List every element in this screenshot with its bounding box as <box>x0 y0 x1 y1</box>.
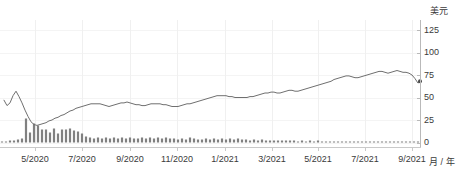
gridline-vertical <box>35 20 36 143</box>
y-axis-tick-mark <box>417 53 421 54</box>
x-axis-tick-mark <box>35 147 36 151</box>
x-axis-tick-label: 5/2020 <box>21 154 49 164</box>
gridline-horizontal <box>0 143 420 144</box>
x-axis-tick-label: 9/2021 <box>398 154 426 164</box>
x-axis-tick-label: 1/2021 <box>211 154 239 164</box>
x-axis-tick-mark <box>225 147 226 151</box>
y-axis-tick-mark <box>417 98 421 99</box>
x-axis-tick-mark <box>318 147 319 151</box>
gridline-vertical <box>412 20 413 143</box>
gridline-vertical <box>82 20 83 143</box>
y-axis-tick-label: 100 <box>424 48 439 57</box>
y-axis-title: 美元 <box>430 4 448 17</box>
x-axis-tick-label: 3/2021 <box>258 154 286 164</box>
y-axis-tick-mark <box>417 30 421 31</box>
gridline-horizontal <box>0 30 420 31</box>
x-axis-tick-label: 11/2020 <box>161 154 193 164</box>
y-axis-tick-label: 125 <box>424 26 439 35</box>
plot-area <box>0 20 420 143</box>
x-axis-tick-label: 5/2021 <box>304 154 332 164</box>
gridline-vertical <box>365 20 366 143</box>
x-axis-tick-mark <box>82 147 83 151</box>
gridline-horizontal <box>0 120 420 121</box>
gridline-vertical <box>272 20 273 143</box>
x-axis-tick-label: 7/2021 <box>351 154 379 164</box>
gridline-vertical <box>225 20 226 143</box>
y-axis-tick-label: 0 <box>424 138 429 147</box>
x-axis-title: 月 / 年 <box>429 155 455 168</box>
x-axis-tick-mark <box>412 147 413 151</box>
x-axis-tick-mark <box>177 147 178 151</box>
x-axis-tick-label: 9/2020 <box>116 154 144 164</box>
gridline-horizontal <box>0 53 420 54</box>
gridline-vertical <box>318 20 319 143</box>
y-axis-tick-label: 50 <box>424 93 434 102</box>
x-axis-tick-label: 7/2020 <box>68 154 96 164</box>
stock-price-chart: 美元 月 / 年 0255075100125 5/20207/20209/202… <box>0 0 463 173</box>
y-axis-tick-mark <box>417 120 421 121</box>
y-axis-tick-label: 75 <box>424 71 434 80</box>
gridline-horizontal <box>0 75 420 76</box>
gridline-horizontal <box>0 98 420 99</box>
y-axis-tick-label: 25 <box>424 116 434 125</box>
x-axis-tick-mark <box>365 147 366 151</box>
y-axis-tick-mark <box>417 143 421 144</box>
y-axis-line <box>420 20 421 148</box>
x-axis-tick-mark <box>130 147 131 151</box>
gridline-vertical <box>130 20 131 143</box>
x-axis-line <box>0 147 421 148</box>
gridline-vertical <box>177 20 178 143</box>
x-axis-tick-mark <box>272 147 273 151</box>
y-axis-tick-mark <box>417 75 421 76</box>
